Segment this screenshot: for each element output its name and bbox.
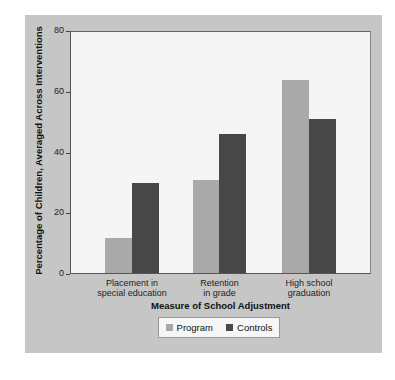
y-tick-label: 80 — [46, 25, 64, 35]
y-tick-mark — [66, 274, 70, 275]
bar-controls-3 — [309, 119, 336, 273]
y-tick-label: 0 — [46, 268, 64, 278]
legend-item-controls: Controls — [226, 322, 272, 333]
y-tick-label: 60 — [46, 86, 64, 96]
x-tick-label-line: High school — [254, 278, 364, 288]
bar-controls-2 — [219, 134, 246, 273]
controls-swatch-icon — [226, 324, 233, 331]
legend-label-controls: Controls — [237, 322, 272, 333]
program-swatch-icon — [166, 324, 173, 331]
y-tick-label: 20 — [46, 207, 64, 217]
bar-program-1 — [105, 238, 132, 273]
legend-item-program: Program — [166, 322, 213, 333]
y-axis-title: Percentage of Children, Averaged Across … — [33, 16, 44, 286]
bar-program-3 — [282, 80, 309, 273]
bar-controls-1 — [132, 183, 159, 273]
y-tick-label: 40 — [46, 147, 64, 157]
x-axis-title: Measure of School Adjustment — [70, 300, 371, 311]
legend: Program Controls — [158, 317, 280, 338]
legend-label-program: Program — [177, 322, 213, 333]
x-tick-label: High schoolgraduation — [254, 278, 364, 298]
x-tick-label-line: graduation — [254, 288, 364, 298]
bar-program-2 — [193, 180, 219, 273]
